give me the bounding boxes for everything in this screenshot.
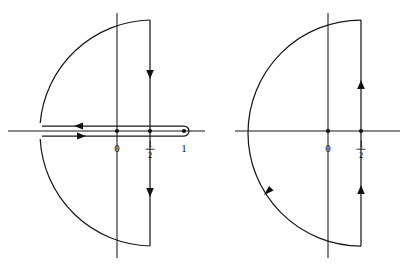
left-point-dot-half [148,129,152,133]
arrow-right-lower-vertical-up [357,185,365,194]
arrow-right-upper-vertical-up [357,80,365,89]
right-panel-semicircle-diagram: 0 1 2 [235,13,400,258]
right-tick-half-numerator: 1 [359,139,363,149]
left-arc-lower [40,139,150,246]
arrow-left-lower-vertical-down [146,188,154,197]
contour-figure: 0 1 2 1 0 [0,0,411,269]
left-tick-label-half: 1 2 [146,139,155,160]
left-tick-half-numerator: 1 [148,139,152,149]
right-tick-label-half: 1 2 [357,139,366,160]
arrow-right-arc-counterclockwise [264,186,274,195]
arrow-left-cut-lower-right [77,132,86,139]
left-panel-keyhole-diagram: 0 1 2 1 [8,13,205,258]
left-point-dot-0 [115,129,119,133]
right-tick-label-0: 0 [325,142,331,154]
right-arc [248,20,361,246]
arrow-left-upper-vertical-down [146,70,154,79]
left-tick-half-denominator: 2 [148,150,152,160]
left-tick-label-0: 0 [114,142,120,154]
right-tick-half-denominator: 2 [359,150,363,160]
left-point-dot-1 [182,129,186,133]
right-point-dot-half [359,129,363,133]
left-arc-upper [40,20,150,123]
arrow-left-cut-upper-left [74,122,83,129]
left-tick-label-1: 1 [181,142,187,154]
figure-container: 0 1 2 1 0 [0,0,411,269]
right-point-dot-0 [326,129,330,133]
